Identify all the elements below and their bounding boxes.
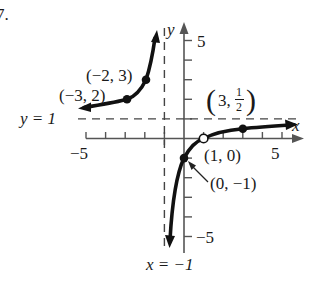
up-arrowhead-icon: [151, 30, 160, 43]
y-tick-label-pos5: 5: [197, 32, 206, 51]
label-point-0-neg1: (0, −1): [210, 174, 256, 193]
vertical-asymptote-label: x = −1: [145, 255, 194, 274]
point-neg3-2: [123, 95, 132, 104]
point-0-neg1: [180, 154, 189, 163]
label-point-3-half: ( 3, 1 2 ): [206, 83, 256, 117]
y-axis-label: y: [165, 20, 175, 39]
svg-text:3,: 3,: [218, 91, 231, 110]
svg-text:2: 2: [236, 100, 242, 114]
rational-function-graph: 7. x −5 5: [0, 0, 324, 282]
x-tick-label-neg5: −5: [70, 144, 88, 163]
horizontal-asymptote-label: y = 1: [18, 109, 56, 128]
x-tick-label-pos5: 5: [271, 144, 280, 163]
svg-text:1: 1: [236, 85, 242, 99]
svg-text:(: (: [206, 83, 216, 117]
down-arrowhead-icon: [165, 235, 175, 248]
label-point-1-0: (1, 0): [204, 146, 241, 165]
svg-text:): ): [246, 83, 256, 117]
point-3-half: [239, 124, 248, 133]
y-tick-label-neg5: −5: [196, 228, 214, 247]
point-neg2-3: [142, 75, 151, 84]
point-1-0-open: [199, 134, 208, 143]
label-point-neg3-2: (−3, 2): [59, 86, 105, 105]
label-point-neg2-3: (−2, 3): [86, 66, 132, 85]
exercise-number: 7.: [0, 5, 9, 24]
